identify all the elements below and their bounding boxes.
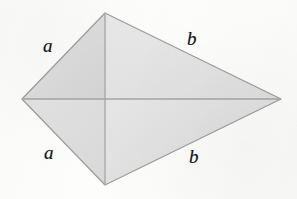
side-label-b-upper-right: b <box>187 29 197 48</box>
kite-diagram <box>0 0 297 199</box>
side-label-a-upper-left: a <box>43 36 53 55</box>
figure-page: a b a b <box>0 0 297 199</box>
side-label-b-lower-right: b <box>189 147 199 166</box>
side-label-a-lower-left: a <box>44 143 54 162</box>
